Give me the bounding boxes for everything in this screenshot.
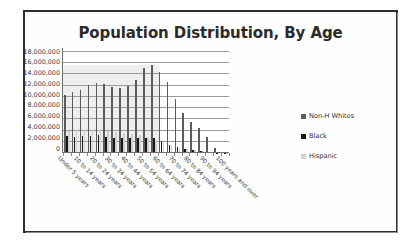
legend-swatch-icon	[301, 154, 306, 159]
bar-group	[151, 52, 159, 153]
bar	[198, 128, 200, 153]
y-tick-label: 16,000,000	[23, 59, 60, 66]
chart-legend: Non-H WhitesBlackHispanic	[301, 112, 396, 172]
bar	[175, 99, 177, 153]
legend-swatch-icon	[301, 114, 306, 119]
legend-swatch-icon	[301, 134, 306, 139]
y-tick-label: 18,000,000	[23, 49, 60, 56]
bar-group	[64, 52, 72, 153]
bar	[107, 131, 109, 153]
y-tick-label: 14,000,000	[23, 70, 60, 77]
bar	[147, 137, 149, 153]
bar-group	[119, 52, 127, 153]
bar-group	[103, 52, 111, 153]
bar-group	[143, 52, 151, 153]
y-tick-label: 4,000,000	[27, 124, 60, 131]
y-tick-label: 12,000,000	[23, 81, 60, 88]
x-axis-line	[62, 152, 229, 153]
bar-group	[167, 52, 175, 153]
bar	[100, 129, 102, 153]
bar	[92, 130, 94, 153]
bar-group	[175, 52, 183, 153]
bar-group	[88, 52, 96, 153]
legend-item: Non-H Whites	[301, 112, 396, 120]
bar-group	[182, 52, 190, 153]
x-axis-tick-labels: Under 5 years10 to 14 years20 to 24 year…	[63, 155, 313, 225]
bar	[123, 133, 125, 153]
bar	[182, 113, 184, 153]
legend-label: Hispanic	[309, 152, 337, 160]
bar-group	[222, 52, 230, 153]
bar-group	[80, 52, 88, 153]
legend-item: Black	[301, 132, 396, 140]
bar-group	[111, 52, 119, 153]
y-tick-label: 10,000,000	[23, 92, 60, 99]
y-tick-label: 2,000,000	[27, 135, 60, 142]
bar	[76, 130, 78, 153]
legend-item: Hispanic	[301, 152, 396, 160]
y-tick-label: 6,000,000	[27, 113, 60, 120]
bar-group	[198, 52, 206, 153]
bar-group	[72, 52, 80, 153]
bar-group	[96, 52, 104, 153]
bar	[167, 82, 169, 153]
bar-group	[159, 52, 167, 153]
bar	[84, 130, 86, 153]
bar-group	[206, 52, 214, 153]
bar	[115, 132, 117, 153]
legend-label: Black	[309, 132, 327, 140]
y-axis-line	[62, 48, 63, 153]
bar-group	[135, 52, 143, 153]
bar	[68, 131, 70, 153]
bar-group	[190, 52, 198, 153]
bar-group	[127, 52, 135, 153]
y-axis-tick-labels: 18,000,00016,000,00014,000,00012,000,000…	[14, 48, 60, 158]
legend-label: Non-H Whites	[309, 112, 354, 120]
plot-area	[63, 52, 229, 153]
bar	[190, 122, 192, 153]
bar	[131, 134, 133, 153]
y-tick-label: 8,000,000	[27, 102, 60, 109]
bar-group	[214, 52, 222, 153]
bar	[139, 135, 141, 153]
chart-title: Population Distribution, By Age	[25, 24, 396, 42]
y-tick-label: 0	[56, 146, 60, 153]
